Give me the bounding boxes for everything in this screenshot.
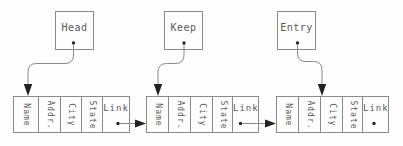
entry-arrowhead-icon bbox=[318, 84, 326, 96]
field-label-city: City bbox=[327, 103, 336, 126]
head-arrow-line bbox=[28, 44, 74, 85]
node3-cell-city: City bbox=[320, 97, 342, 132]
field-label-link: Link bbox=[103, 103, 129, 132]
node1-cell-state: State bbox=[81, 97, 102, 132]
field-label-name: Name bbox=[283, 103, 292, 126]
pointer-box-keep: Keep bbox=[164, 11, 203, 50]
node1-link-arrowhead-icon bbox=[135, 120, 146, 128]
head-arrowhead-icon bbox=[24, 84, 32, 96]
pointer-label-keep: Keep bbox=[170, 22, 196, 49]
node1-cell-addr: Addr. bbox=[38, 97, 60, 132]
list-node-2: Name Addr. City State Link bbox=[146, 96, 259, 133]
keep-arrow-line bbox=[158, 44, 184, 85]
field-label-name: Name bbox=[153, 103, 162, 126]
pointer-box-entry: Entry bbox=[277, 11, 316, 50]
field-label-addr: Addr. bbox=[305, 100, 314, 129]
node3-cell-addr: Addr. bbox=[298, 97, 320, 132]
node1-cell-city: City bbox=[60, 97, 81, 132]
entry-arrow-line bbox=[298, 44, 323, 85]
node2-cell-link: Link bbox=[232, 97, 259, 132]
field-label-state: State bbox=[348, 100, 357, 129]
field-label-link: Link bbox=[233, 103, 259, 132]
pointer-box-head: Head bbox=[55, 11, 94, 50]
keep-arrowhead-icon bbox=[154, 84, 162, 96]
field-label-state: State bbox=[88, 100, 97, 129]
linked-list-diagram: Head Keep Entry Name Addr. City State Li… bbox=[0, 0, 403, 146]
list-node-1: Name Addr. City State Link bbox=[13, 96, 130, 133]
node2-cell-addr: Addr. bbox=[168, 97, 190, 132]
node1-cell-link: Link bbox=[102, 97, 129, 132]
node2-cell-name: Name bbox=[147, 97, 168, 132]
pointer-label-head: Head bbox=[61, 22, 87, 49]
field-label-link: Link bbox=[363, 103, 389, 132]
field-label-name: Name bbox=[22, 103, 31, 126]
node2-link-arrowhead-icon bbox=[265, 120, 276, 128]
node2-cell-city: City bbox=[190, 97, 212, 132]
node1-cell-name: Name bbox=[14, 97, 38, 132]
pointer-label-entry: Entry bbox=[280, 22, 313, 49]
field-label-addr: Addr. bbox=[45, 100, 54, 129]
list-node-3: Name Addr. City State Link bbox=[276, 96, 389, 133]
node3-cell-state: State bbox=[342, 97, 362, 132]
field-label-city: City bbox=[67, 103, 76, 126]
field-label-addr: Addr. bbox=[175, 100, 184, 129]
node2-cell-state: State bbox=[212, 97, 232, 132]
node3-cell-link: Link bbox=[362, 97, 389, 132]
field-label-city: City bbox=[197, 103, 206, 126]
node3-cell-name: Name bbox=[277, 97, 298, 132]
field-label-state: State bbox=[218, 100, 227, 129]
